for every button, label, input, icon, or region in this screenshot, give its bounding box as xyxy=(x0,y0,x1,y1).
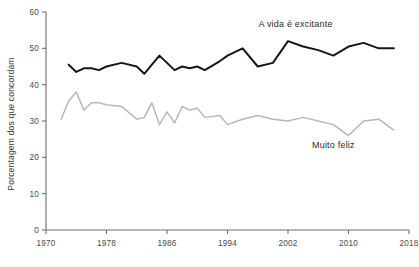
x-tick-label: 1978 xyxy=(97,239,116,248)
x-tick-label: 1970 xyxy=(36,239,55,248)
series-line-1 xyxy=(69,41,394,74)
series-group xyxy=(61,41,394,135)
series-annotation-1: A vida é excitante xyxy=(258,19,332,29)
x-axis-group: 1970197819861994200220102018 xyxy=(36,230,418,248)
y-tick-label: 0 xyxy=(34,226,39,235)
x-tick-label: 2018 xyxy=(399,239,418,248)
y-tick-label: 40 xyxy=(29,81,39,90)
series-line-2 xyxy=(61,92,394,136)
chart-container: 0102030405060 19701978198619942002201020… xyxy=(0,0,419,267)
y-axis-title: Porcentagem dos que concordam xyxy=(6,57,16,190)
y-axis-group: 0102030405060 xyxy=(29,8,46,235)
y-tick-label: 30 xyxy=(29,117,39,126)
y-tick-label: 20 xyxy=(29,153,39,162)
y-tick-group: 0102030405060 xyxy=(29,8,46,235)
y-tick-label: 10 xyxy=(29,190,39,199)
x-tick-label: 1994 xyxy=(218,239,237,248)
y-tick-label: 50 xyxy=(29,44,39,53)
x-tick-label: 2010 xyxy=(339,239,358,248)
series-annotation-2: Muito feliz xyxy=(312,140,355,150)
x-tick-group: 1970197819861994200220102018 xyxy=(36,230,418,248)
x-tick-label: 2002 xyxy=(278,239,297,248)
y-tick-label: 60 xyxy=(29,8,39,17)
x-tick-label: 1986 xyxy=(157,239,176,248)
line-chart-svg: 0102030405060 19701978198619942002201020… xyxy=(0,0,419,267)
